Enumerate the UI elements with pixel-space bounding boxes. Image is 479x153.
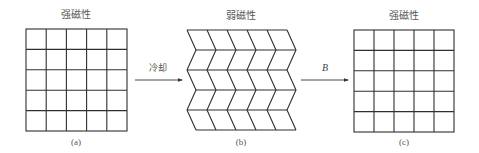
diagram-canvas [0, 0, 479, 153]
arrow-field-label: B [322, 63, 328, 73]
panel-b-title: 弱磁性 [226, 11, 256, 21]
grid-c-strong-magnetic [354, 30, 454, 132]
arrow-cooling-label: 冷却 [149, 64, 167, 73]
panel-c-caption: (c) [399, 138, 409, 147]
panel-a-title: 强磁性 [61, 10, 91, 20]
grid-a-strong-magnetic [26, 29, 127, 131]
panel-c-title: 强磁性 [389, 11, 419, 21]
panel-b-caption: (b) [236, 138, 247, 147]
panel-a-caption: (a) [71, 138, 81, 147]
grid-b-weak-magnetic [187, 30, 296, 130]
